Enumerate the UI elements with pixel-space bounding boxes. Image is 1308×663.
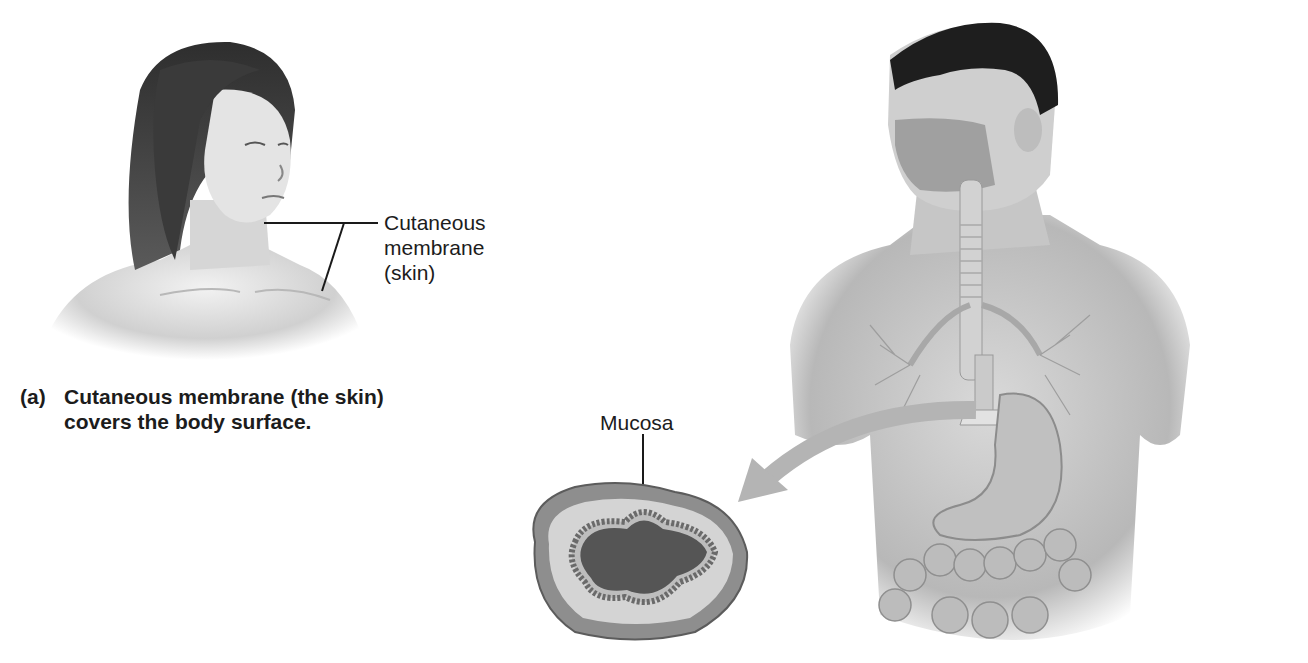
label-line-2: membrane [384, 235, 486, 260]
man-torso-illustration [770, 15, 1210, 655]
caption-line-1: Cutaneous membrane (the skin) [64, 385, 384, 408]
woman-illustration [40, 30, 380, 370]
caption-line-2: covers the body surface. [20, 409, 384, 434]
caption-tag: (a) [20, 384, 64, 409]
organ-cross-section-illustration [515, 432, 755, 652]
cutaneous-membrane-label: Cutaneous membrane (skin) [384, 210, 486, 285]
curved-arrow-icon [728, 398, 988, 518]
label-line-3: (skin) [384, 260, 486, 285]
figure-a-caption: (a)Cutaneous membrane (the skin) covers … [20, 384, 384, 434]
cutaneous-leader-lines [260, 215, 380, 295]
label-line-1: Cutaneous [384, 210, 486, 235]
